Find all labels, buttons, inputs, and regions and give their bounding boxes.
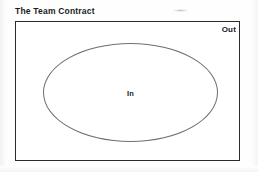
inside-region-ellipse: In	[43, 43, 218, 142]
page-canvas: The Team Contract Out In	[0, 0, 258, 172]
scan-edge-left	[0, 0, 7, 172]
outside-region-label: Out	[222, 25, 236, 34]
scan-edge-right	[250, 0, 258, 172]
inside-region-label: In	[127, 88, 134, 97]
scan-edge-bottom	[0, 166, 258, 172]
page-title: The Team Contract	[15, 6, 95, 16]
scan-smudge-artifact	[173, 9, 188, 12]
outer-boundary-rectangle: Out In	[15, 21, 240, 161]
